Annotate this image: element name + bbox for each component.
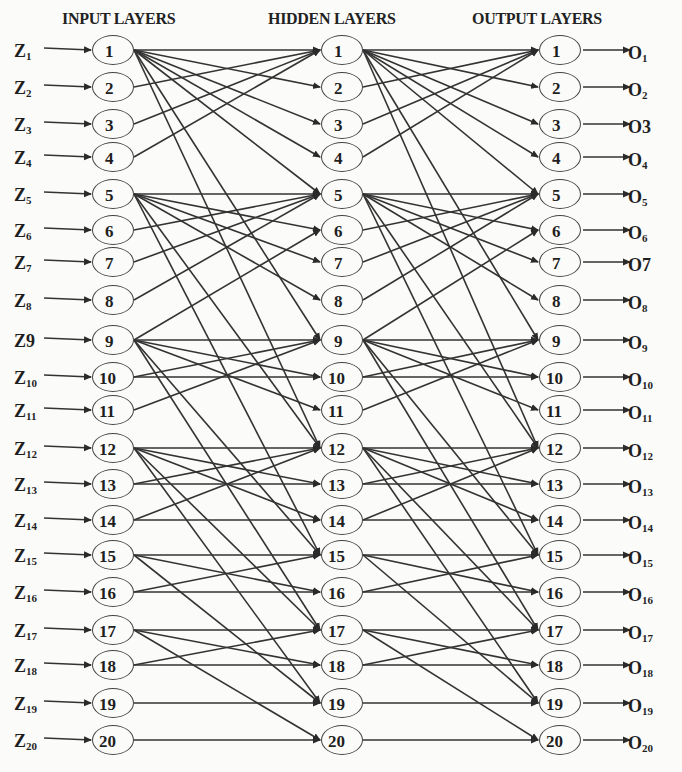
output-label-o5: O5: [628, 188, 648, 208]
hidden-node-label: 17: [328, 623, 345, 640]
hidden-node-label: 7: [334, 255, 343, 272]
input-label-z9: Z9: [14, 332, 35, 350]
output-node-label: 20: [546, 733, 563, 750]
input-label-z20: Z20: [14, 732, 37, 752]
edge-input-1-hidden-5: [134, 50, 320, 194]
input-arrow-6: [44, 228, 91, 230]
output-label-o16: O16: [628, 586, 653, 606]
input-node-label: 11: [99, 403, 115, 420]
input-arrow-5: [44, 192, 91, 194]
neural-network-diagram: INPUT LAYERS HIDDEN LAYERS OUTPUT LAYERS…: [0, 0, 682, 772]
input-label-z1: Z1: [14, 42, 32, 62]
input-node-label: 9: [105, 333, 114, 350]
input-node-label: 5: [105, 187, 114, 204]
input-arrow-1: [44, 48, 91, 50]
output-label-o13: O13: [628, 478, 653, 498]
input-label-z12: Z12: [14, 440, 37, 460]
input-node-label: 17: [99, 623, 116, 640]
output-node-label: 5: [552, 187, 561, 204]
output-label-o8: O8: [628, 294, 648, 314]
output-node-label: 15: [546, 548, 563, 565]
input-arrow-17: [44, 628, 91, 630]
output-node-label: 3: [552, 117, 561, 134]
input-label-z14: Z14: [14, 512, 37, 532]
output-node-label: 1: [552, 43, 561, 60]
input-node-label: 3: [105, 117, 114, 134]
edge-hidden-12-output-17: [363, 448, 538, 630]
output-node-label: 10: [546, 370, 563, 387]
input-node-label: 8: [105, 293, 114, 310]
input-arrow-20: [44, 738, 91, 740]
input-arrow-8: [44, 298, 91, 300]
input-arrow-15: [44, 553, 91, 555]
input-arrow-12: [44, 446, 91, 448]
input-label-z4: Z4: [14, 149, 32, 169]
input-label-z10: Z10: [14, 369, 37, 389]
output-node-label: 18: [546, 658, 563, 675]
hidden-node-label: 18: [328, 658, 345, 675]
output-label-o19: O19: [628, 697, 653, 717]
output-node-label: 12: [546, 441, 563, 458]
edge-hidden-5-output-12: [363, 194, 538, 448]
input-arrow-18: [44, 663, 91, 665]
input-arrow-10: [44, 375, 91, 377]
output-node-label: 17: [546, 623, 563, 640]
input-label-z13: Z13: [14, 476, 37, 496]
input-node-label: 20: [99, 733, 116, 750]
hidden-node-label: 9: [334, 333, 343, 350]
input-node-label: 15: [99, 548, 116, 565]
input-label-z19: Z19: [14, 695, 37, 715]
edge-hidden-1-output-9: [363, 50, 538, 340]
input-label-z5: Z5: [14, 186, 32, 206]
input-node-label: 7: [105, 255, 114, 272]
edge-hidden-15-output-19: [363, 555, 538, 703]
output-label-o4: O4: [628, 151, 648, 171]
hidden-node-label: 3: [334, 117, 343, 134]
hidden-node-label: 20: [328, 733, 345, 750]
edge-input-12-hidden-17: [134, 448, 320, 630]
input-arrow-9: [44, 338, 91, 340]
hidden-node-label: 5: [334, 187, 343, 204]
edge-input-5-hidden-12: [134, 194, 320, 448]
output-label-o9: O9: [628, 334, 648, 354]
output-node-label: 11: [546, 403, 562, 420]
output-node-label: 9: [552, 333, 561, 350]
input-node-label: 10: [99, 370, 116, 387]
output-label-o10: O10: [628, 371, 653, 391]
hidden-node-label: 11: [328, 403, 344, 420]
input-node-label: 18: [99, 658, 116, 675]
output-layers-title: OUTPUT LAYERS: [472, 10, 602, 28]
input-arrow-4: [44, 155, 91, 157]
output-label-o18: O18: [628, 659, 653, 679]
input-node-label: 12: [99, 441, 116, 458]
input-arrow-14: [44, 518, 91, 520]
edge-input-15-hidden-19: [134, 555, 320, 703]
input-to-hidden-connections: [134, 50, 320, 740]
input-arrow-2: [44, 85, 91, 87]
input-arrow-13: [44, 482, 91, 484]
hidden-node-label: 10: [328, 370, 345, 387]
hidden-node-label: 16: [328, 585, 345, 602]
output-label-o20: O20: [628, 734, 653, 754]
output-node-label: 2: [552, 80, 561, 97]
input-node-label: 16: [99, 585, 116, 602]
hidden-node-label: 4: [334, 150, 343, 167]
input-layers-title: INPUT LAYERS: [62, 10, 175, 28]
hidden-node-label: 14: [328, 513, 345, 530]
input-label-z3: Z3: [14, 116, 32, 136]
input-label-z7: Z7: [14, 254, 32, 274]
output-node-label: 4: [552, 150, 561, 167]
edge-input-17-hidden-20: [134, 630, 320, 740]
input-label-z2: Z2: [14, 79, 32, 99]
input-arrow-11: [44, 408, 91, 410]
hidden-node-label: 15: [328, 548, 345, 565]
output-node-label: 16: [546, 585, 563, 602]
input-node-label: 4: [105, 150, 114, 167]
hidden-node-label: 8: [334, 293, 343, 310]
edge-input-1-hidden-9: [134, 50, 320, 340]
input-node-label: 2: [105, 80, 114, 97]
input-label-z11: Z11: [14, 402, 36, 422]
output-label-o14: O14: [628, 514, 653, 534]
output-label-o1: O1: [628, 44, 648, 64]
hidden-node-label: 2: [334, 80, 343, 97]
